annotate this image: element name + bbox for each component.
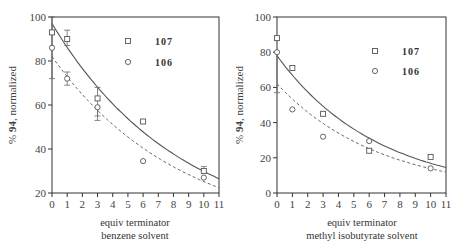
data-point-107 [290,66,295,71]
x-tick-label: 2 [305,198,311,210]
legend-label-106: 106 [402,66,420,77]
x-tick-label: 5 [351,198,357,210]
y-axis-label-suffix: , normalized [233,66,245,121]
data-point-106 [49,45,54,50]
legend-label-106: 106 [155,57,173,68]
y-tick-label: 40 [260,117,272,129]
data-point-107 [141,119,146,124]
x-tick-label: 7 [382,198,388,210]
x-tick-label: 3 [95,198,101,210]
y-axis-label-compound: 94 [233,121,245,133]
y-tick-label: 80 [260,46,272,58]
legend-marker-107 [126,39,131,44]
chart-methyl-isobutyrate: 01234567891011020406080100% 94, normaliz… [233,11,451,241]
data-point-107 [201,169,206,174]
x-tick-label: 0 [274,198,280,210]
y-axis-label-prefix: % [6,132,18,144]
data-point-107 [275,36,280,41]
y-tick-label: 100 [255,11,272,23]
data-point-107 [95,96,100,101]
legend-label-107: 107 [402,46,420,57]
data-point-106 [367,138,372,143]
data-point-107 [50,30,55,35]
data-point-107 [367,148,372,153]
x-tick-label: 2 [80,198,86,210]
y-tick-label: 80 [35,55,47,67]
y-axis-label: % 94, normalized [6,66,18,144]
y-axis-label-compound: 94 [6,121,18,133]
figure: 0123456789101120406080100% 94, normalize… [0,0,460,247]
x-tick-label: 10 [425,198,437,210]
chart-benzene: 0123456789101120406080100% 94, normalize… [6,11,224,241]
y-tick-label: 40 [35,143,47,155]
fit-curve-106 [277,84,446,172]
x-tick-label: 8 [171,198,177,210]
data-point-106 [320,134,325,139]
legend-marker-107 [373,49,378,54]
fit-curve-106 [52,57,219,188]
x-axis-label-solvent: methyl isobutyrate solvent [306,230,417,241]
legend-marker-106 [372,68,377,73]
legend-label-107: 107 [155,36,173,47]
data-point-106 [65,76,70,81]
x-tick-label: 1 [290,198,296,210]
data-point-107 [321,111,326,116]
x-tick-label: 9 [413,198,419,210]
x-tick-label: 3 [320,198,326,210]
data-point-106 [140,159,145,164]
y-axis-label-prefix: % [233,132,245,144]
legend-marker-106 [125,59,130,64]
data-point-107 [428,154,433,159]
x-tick-label: 0 [49,198,55,210]
data-point-106 [290,107,295,112]
fit-curve-107 [277,56,446,168]
x-tick-label: 6 [140,198,146,210]
x-tick-label: 9 [186,198,192,210]
x-tick-label: 6 [366,198,372,210]
data-point-106 [201,175,206,180]
x-axis-label: equiv terminator [100,217,170,228]
y-tick-label: 60 [35,99,47,111]
fit-curve-107 [52,24,219,179]
x-tick-label: 4 [110,198,116,210]
x-tick-label: 11 [214,198,225,210]
x-tick-label: 4 [336,198,342,210]
y-tick-label: 20 [260,152,272,164]
x-tick-label: 7 [156,198,162,210]
x-tick-label: 11 [441,198,452,210]
y-tick-label: 0 [266,187,272,199]
x-tick-label: 5 [125,198,131,210]
x-tick-label: 10 [198,198,210,210]
data-point-106 [428,166,433,171]
data-point-106 [274,50,279,55]
data-point-107 [65,37,70,42]
y-axis-label: % 94, normalized [233,66,245,144]
y-tick-label: 60 [260,81,272,93]
data-point-106 [95,105,100,110]
x-tick-label: 1 [64,198,70,210]
y-tick-label: 100 [30,11,47,23]
x-tick-label: 8 [397,198,403,210]
x-axis-label-solvent: benzene solvent [101,230,168,241]
y-tick-label: 20 [35,187,47,199]
x-axis-label: equiv terminator [327,217,397,228]
y-axis-label-suffix: , normalized [6,66,18,121]
